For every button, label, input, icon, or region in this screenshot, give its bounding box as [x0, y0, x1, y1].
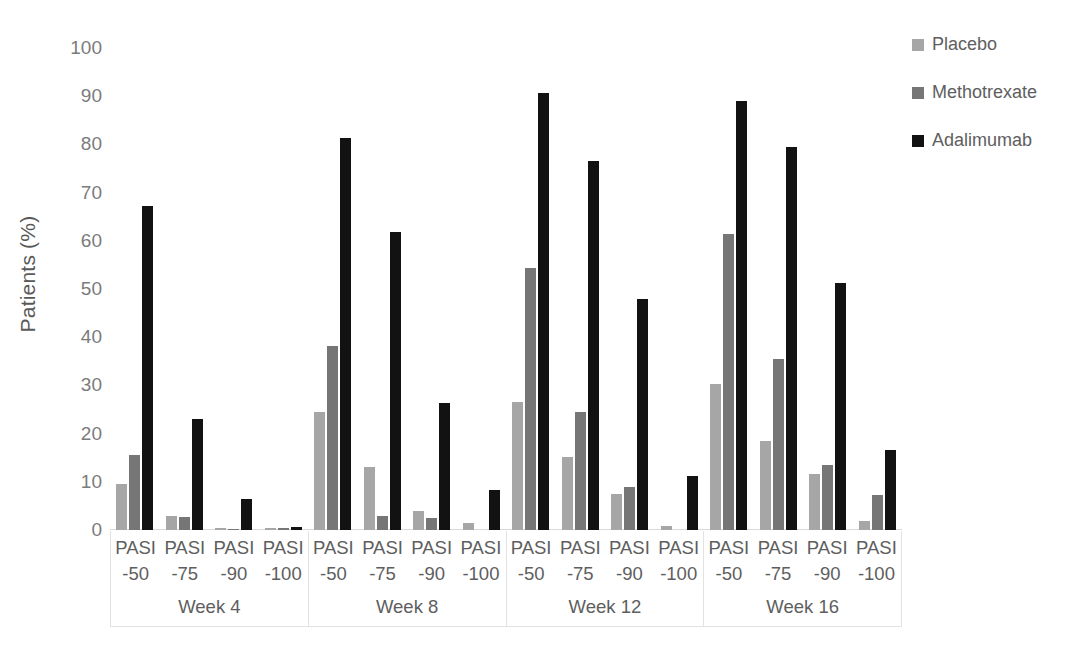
bar [142, 206, 153, 530]
bar-chart: Patients (%) 1009080706050403020100 PASI… [0, 0, 1069, 651]
pasi-label-top: PASI [362, 535, 403, 561]
pasi-label-top: PASI [758, 535, 799, 561]
y-axis-tick: 80 [56, 133, 102, 155]
pasi-label-top: PASI [708, 535, 749, 561]
week-group [506, 48, 704, 530]
bar [377, 516, 388, 530]
bar [809, 474, 820, 530]
bar [413, 511, 424, 530]
bar [637, 299, 648, 530]
bar [687, 476, 698, 530]
bar [736, 101, 747, 530]
bar [215, 528, 226, 530]
bar [192, 419, 203, 530]
pasi-group [803, 48, 853, 530]
bar [760, 441, 771, 530]
pasi-group [407, 48, 457, 530]
x-axis-labels: PASI-50PASI-75PASI-90PASI-100Week 4PASI-… [110, 531, 902, 627]
bar [723, 234, 734, 530]
bar [835, 283, 846, 530]
legend-item[interactable]: Placebo [912, 34, 1037, 55]
bar [340, 138, 351, 530]
x-axis-pasi-label: PASI-50 [111, 531, 160, 588]
bar [872, 495, 883, 530]
bar [278, 528, 289, 530]
pasi-group [506, 48, 556, 530]
pasi-label-bottom: -100 [265, 561, 302, 587]
chart-legend: PlaceboMethotrexateAdalimumab [912, 34, 1037, 151]
legend-swatch-icon [912, 39, 924, 51]
pasi-group [457, 48, 507, 530]
x-axis-pasi-label: PASI-75 [556, 531, 605, 588]
pasi-label-bottom: -90 [814, 561, 841, 587]
bar [588, 161, 599, 530]
pasi-label-top: PASI [856, 535, 897, 561]
x-axis-pasi-label: PASI-50 [309, 531, 358, 588]
plot-area [110, 48, 902, 530]
pasi-label-top: PASI [214, 535, 255, 561]
pasi-label-bottom: -50 [320, 561, 347, 587]
pasi-label-top: PASI [560, 535, 601, 561]
pasi-group [704, 48, 754, 530]
bar [314, 412, 325, 530]
bar [512, 402, 523, 530]
bar [426, 518, 437, 530]
pasi-label-bottom: -90 [616, 561, 643, 587]
pasi-label-bottom: -90 [221, 561, 248, 587]
bar [538, 93, 549, 530]
pasi-group [655, 48, 705, 530]
x-axis-week-block: PASI-50PASI-75PASI-90PASI-100Week 16 [703, 531, 902, 627]
y-axis-title: Patients (%) [16, 164, 40, 384]
x-axis-week-label: Week 8 [309, 588, 506, 626]
bar [525, 268, 536, 530]
bar [179, 517, 190, 530]
y-axis-tick: 20 [56, 423, 102, 445]
x-axis-week-label: Week 4 [111, 588, 308, 626]
pasi-label-top: PASI [411, 535, 452, 561]
pasi-label-bottom: -50 [715, 561, 742, 587]
bar [463, 523, 474, 530]
pasi-label-top: PASI [164, 535, 205, 561]
bar [710, 384, 721, 530]
x-axis-pasi-label: PASI-50 [704, 531, 753, 588]
legend-item[interactable]: Methotrexate [912, 82, 1037, 103]
y-axis-tick: 30 [56, 374, 102, 396]
bar [129, 455, 140, 530]
y-axis-tick: 70 [56, 182, 102, 204]
x-axis-pasi-label: PASI-90 [209, 531, 258, 588]
bar [291, 527, 302, 530]
bar [885, 450, 896, 530]
week-group [308, 48, 506, 530]
pasi-group [556, 48, 606, 530]
legend-swatch-icon [912, 135, 924, 147]
y-axis-tick: 0 [56, 519, 102, 541]
pasi-label-bottom: -50 [122, 561, 149, 587]
x-axis-pasi-label: PASI-50 [507, 531, 556, 588]
pasi-group [259, 48, 309, 530]
x-axis-week-label: Week 12 [507, 588, 704, 626]
legend-item[interactable]: Adalimumab [912, 130, 1037, 151]
x-axis-pasi-label: PASI-90 [407, 531, 456, 588]
legend-label: Placebo [932, 34, 997, 55]
pasi-label-top: PASI [461, 535, 502, 561]
pasi-label-bottom: -75 [171, 561, 198, 587]
bar [575, 412, 586, 530]
legend-label: Adalimumab [932, 130, 1032, 151]
week-group [704, 48, 902, 530]
pasi-group [358, 48, 408, 530]
bar [773, 359, 784, 530]
x-axis-week-block: PASI-50PASI-75PASI-90PASI-100Week 4 [110, 531, 308, 627]
pasi-label-bottom: -90 [418, 561, 445, 587]
y-axis-tick: 60 [56, 230, 102, 252]
pasi-group [853, 48, 903, 530]
x-axis-pasi-label: PASI-90 [605, 531, 654, 588]
bar [489, 490, 500, 530]
x-axis-pasi-label: PASI-100 [456, 531, 505, 588]
x-axis-pasi-label: PASI-100 [852, 531, 901, 588]
pasi-label-bottom: -75 [369, 561, 396, 587]
bar [390, 232, 401, 530]
bar [265, 528, 276, 530]
pasi-label-top: PASI [115, 535, 156, 561]
pasi-label-bottom: -75 [765, 561, 792, 587]
x-axis-week-block: PASI-50PASI-75PASI-90PASI-100Week 12 [506, 531, 704, 627]
